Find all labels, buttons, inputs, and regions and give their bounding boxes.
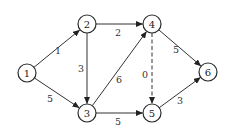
node-2: 2 bbox=[78, 15, 96, 33]
edge-weight-label: 2 bbox=[115, 27, 121, 38]
node-3: 3 bbox=[78, 104, 96, 122]
node-label: 6 bbox=[205, 67, 211, 78]
node-label: 3 bbox=[84, 108, 90, 119]
edge-weight-label: 6 bbox=[116, 74, 122, 85]
node-label: 1 bbox=[24, 68, 30, 79]
edge-weight-label: 5 bbox=[173, 44, 179, 55]
edge-weight-label: 5 bbox=[115, 116, 121, 127]
node-label: 2 bbox=[84, 19, 90, 30]
node-label: 5 bbox=[149, 108, 155, 119]
node-1: 1 bbox=[18, 64, 36, 82]
network-graph: 153265053 123456 bbox=[0, 0, 228, 136]
edge-3-to-4 bbox=[92, 32, 146, 106]
edge-weight-label: 5 bbox=[47, 93, 53, 104]
edge-weight-label: 3 bbox=[177, 95, 183, 106]
node-5: 5 bbox=[143, 104, 161, 122]
edge-4-to-6 bbox=[159, 30, 201, 66]
edge-weight-label: 1 bbox=[55, 45, 61, 56]
edge-weight-label: 0 bbox=[142, 69, 148, 80]
node-label: 4 bbox=[149, 19, 155, 30]
edge-1-to-3 bbox=[34, 78, 79, 108]
edge-weight-label: 3 bbox=[78, 63, 84, 74]
node-4: 4 bbox=[143, 15, 161, 33]
edge-labels-layer: 153265053 bbox=[47, 27, 183, 127]
node-6: 6 bbox=[199, 63, 217, 81]
